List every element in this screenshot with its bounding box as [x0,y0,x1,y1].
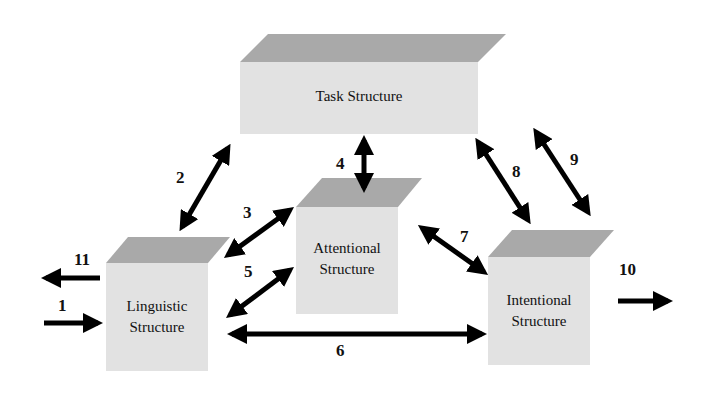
linguistic-line1: Linguistic [106,296,208,317]
arrow-2 [182,148,228,227]
label-2: 2 [176,168,185,188]
arrow-7 [422,228,484,272]
label-1: 1 [58,296,67,316]
label-9: 9 [570,150,579,170]
label-7: 7 [460,227,469,247]
linguistic-line2: Structure [106,317,208,338]
task-structure-label: Task Structure [240,86,478,107]
label-5: 5 [244,262,253,282]
task-structure-box [240,34,506,134]
intentional-structure-label: Intentional Structure [488,290,590,332]
label-10: 10 [619,260,636,280]
label-8: 8 [512,162,521,182]
arrow-3 [228,210,290,255]
arrow-8 [478,142,528,220]
label-3: 3 [243,203,252,223]
arrow-9 [536,132,588,212]
label-6: 6 [336,341,345,361]
attentional-line2: Structure [296,259,398,280]
label-4: 4 [336,154,345,174]
linguistic-structure-label: Linguistic Structure [106,296,208,338]
label-11: 11 [74,250,90,270]
attentional-structure-label: Attentional Structure [296,238,398,280]
intentional-line2: Structure [488,311,590,332]
arrow-5 [230,270,290,315]
intentional-line1: Intentional [488,290,590,311]
attentional-line1: Attentional [296,238,398,259]
